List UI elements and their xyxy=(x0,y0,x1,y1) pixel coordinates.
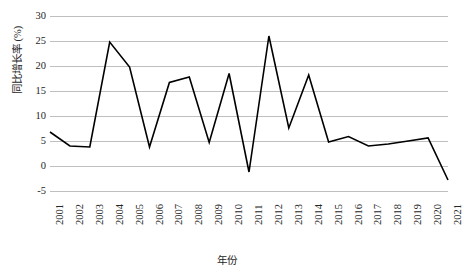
y-axis-tick-label: 25 xyxy=(20,36,46,46)
x-axis-tick-label: 2020 xyxy=(432,185,444,225)
x-axis-tick-labels: 2001200220032004200520062007200820092010… xyxy=(50,191,448,251)
y-axis-tick-labels: 302520151050-5 xyxy=(16,0,46,275)
x-axis-tick-label: 2006 xyxy=(154,185,166,225)
x-axis-tick-label: 2014 xyxy=(313,185,325,225)
x-axis-tick-label: 2017 xyxy=(372,185,384,225)
x-axis-tick-label: 2019 xyxy=(412,185,424,225)
x-axis-tick-label: 2003 xyxy=(94,185,106,225)
x-axis-tick-label: 2001 xyxy=(54,185,66,225)
x-axis-title: 年份 xyxy=(0,252,453,267)
series-line xyxy=(50,16,448,191)
x-axis-tick-label: 2015 xyxy=(333,185,345,225)
y-axis-tick-label: 5 xyxy=(20,136,46,146)
y-axis-tick-label: 20 xyxy=(20,61,46,71)
y-axis-tick-label: 30 xyxy=(20,11,46,21)
y-axis-tick-label: 10 xyxy=(20,111,46,121)
x-axis-tick-label: 2018 xyxy=(392,185,404,225)
x-axis-tick-label: 2009 xyxy=(213,185,225,225)
x-axis-tick-label: 2008 xyxy=(193,185,205,225)
plot-area xyxy=(50,16,448,191)
y-axis-tick-label: -5 xyxy=(20,186,46,196)
x-axis-tick-label: 2004 xyxy=(114,185,126,225)
x-axis-tick-label: 2012 xyxy=(273,185,285,225)
x-axis-tick-label: 2002 xyxy=(74,185,86,225)
x-axis-tick-label: 2005 xyxy=(134,185,146,225)
x-axis-tick-label: 2010 xyxy=(233,185,245,225)
x-axis-tick-label: 2016 xyxy=(353,185,365,225)
y-axis-tick-label: 15 xyxy=(20,86,46,96)
y-axis-tick-label: 0 xyxy=(20,161,46,171)
x-axis-tick-label: 2011 xyxy=(253,185,265,225)
x-axis-tick-label: 2021 xyxy=(452,185,464,225)
x-axis-tick-label: 2013 xyxy=(293,185,305,225)
x-axis-tick-label: 2007 xyxy=(173,185,185,225)
series-polyline xyxy=(50,36,448,180)
